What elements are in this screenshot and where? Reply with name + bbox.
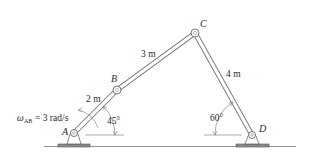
four-bar-linkage-diagram: A B C D 2 m 3 m 4 m 45° 60° ω AB = 3 rad… (0, 0, 311, 164)
angle-label-d: 60° (210, 113, 224, 123)
omega-value: = 3 rad/s (35, 113, 69, 123)
ground-plate-d (236, 144, 269, 147)
ground-plate-a (58, 144, 90, 147)
pin-a (71, 130, 78, 137)
link-cd-length: 4 m (226, 69, 241, 79)
angle-label-a: 45° (107, 116, 121, 126)
angular-velocity-label: ω AB = 3 rad/s (17, 113, 69, 124)
joint-label-c: C (200, 18, 207, 29)
joint-label-a: A (61, 126, 69, 137)
pin-d (249, 132, 256, 139)
omega-symbol: ω (17, 113, 24, 123)
pin-b (113, 86, 121, 94)
link-bc-length: 3 m (141, 49, 156, 59)
link-bc (117, 33, 195, 90)
pin-c (191, 29, 199, 37)
link-cd (195, 33, 252, 135)
link-ab-length: 2 m (86, 94, 101, 104)
diagram-canvas: A B C D 2 m 3 m 4 m 45° 60° ω AB = 3 rad… (0, 0, 311, 164)
joint-label-d: D (258, 123, 267, 134)
omega-subscript: AB (24, 118, 32, 124)
joint-label-b: B (111, 73, 117, 84)
